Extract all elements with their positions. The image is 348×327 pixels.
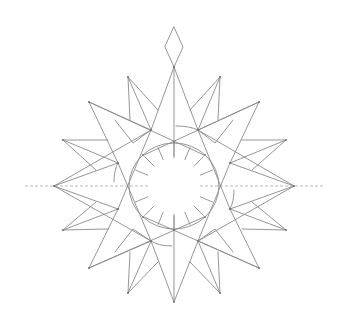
top-diamond-shape [165, 27, 183, 67]
star-drawing-canvas [0, 0, 348, 327]
star-compass-illustration [0, 0, 348, 327]
